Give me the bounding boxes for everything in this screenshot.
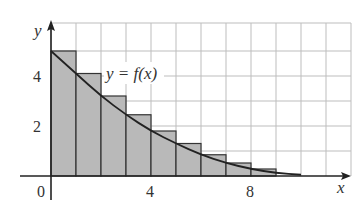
bar xyxy=(76,74,101,177)
y-tick-label: 4 xyxy=(33,68,41,85)
x-tick-label: 4 xyxy=(146,183,154,200)
x-tick-label: 0 xyxy=(37,183,45,200)
y-axis-label: y xyxy=(32,21,42,40)
bar xyxy=(101,96,126,176)
bar xyxy=(226,163,251,176)
riemann-sum-chart: 04824 x y y = f(x) xyxy=(0,0,360,209)
curve-label: y = f(x) xyxy=(104,64,157,83)
x-tick-label: 8 xyxy=(246,183,254,200)
y-tick-label: 2 xyxy=(33,118,41,135)
x-axis-label: x xyxy=(336,178,345,197)
